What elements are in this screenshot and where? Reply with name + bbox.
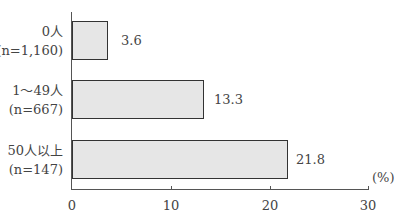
x-axis-unit-label: (%) <box>372 170 395 185</box>
x-tick-label-10: 10 <box>163 198 180 213</box>
category-name: 0人 <box>0 22 63 41</box>
category-sample-size: (n=667) <box>9 100 63 119</box>
x-tick-label-0: 0 <box>68 198 76 213</box>
bar-1 <box>72 80 204 119</box>
value-label-1: 13.3 <box>214 92 243 107</box>
x-tick-label-20: 20 <box>262 198 279 213</box>
category-label-2: 50人以上 (n=147) <box>7 141 63 179</box>
bar-0 <box>72 21 108 60</box>
x-tick-10 <box>171 186 172 190</box>
value-label-0: 3.6 <box>121 33 142 48</box>
category-label-1: 1〜49人 (n=667) <box>9 81 63 119</box>
value-label-2: 21.8 <box>296 152 325 167</box>
category-label-0: 0人 (n=1,160) <box>0 22 63 60</box>
category-sample-size: (n=147) <box>7 160 63 179</box>
horizontal-bar-chart: 0人 (n=1,160) 1〜49人 (n=667) 50人以上 (n=147)… <box>0 0 403 221</box>
x-axis-line <box>71 189 369 190</box>
category-sample-size: (n=1,160) <box>0 41 63 60</box>
category-name: 50人以上 <box>7 141 63 160</box>
x-tick-20 <box>270 186 271 190</box>
x-tick-30 <box>368 186 369 190</box>
x-tick-label-30: 30 <box>360 198 377 213</box>
category-name: 1〜49人 <box>9 81 63 100</box>
bar-2 <box>72 140 288 179</box>
